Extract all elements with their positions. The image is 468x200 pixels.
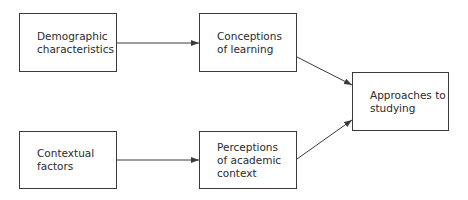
node-approaches-to-studying: Approaches to studying bbox=[352, 72, 449, 131]
node-conceptions-of-learning: Conceptions of learning bbox=[199, 13, 297, 72]
node-label: Conceptions of learning bbox=[200, 30, 282, 56]
diagram-canvas: Demographic characteristics Conceptions … bbox=[0, 0, 468, 200]
node-label: Approaches to studying bbox=[353, 89, 446, 115]
node-label: Perceptions of academic context bbox=[200, 141, 281, 180]
node-label: Demographic characteristics bbox=[20, 30, 114, 56]
node-perceptions-of-academic-context: Perceptions of academic context bbox=[199, 131, 297, 189]
node-demographic-characteristics: Demographic characteristics bbox=[19, 13, 117, 72]
arrow-perceptions-to-approaches bbox=[297, 120, 352, 159]
arrow-conceptions-to-approaches bbox=[297, 57, 352, 85]
node-label: Contextual factors bbox=[20, 147, 94, 173]
node-contextual-factors: Contextual factors bbox=[19, 131, 117, 189]
